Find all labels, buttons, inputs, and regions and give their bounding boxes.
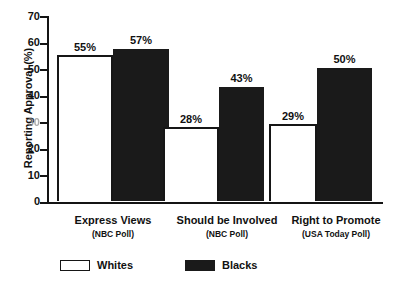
y-tick-mark-40 bbox=[40, 96, 47, 98]
y-axis-spine bbox=[47, 16, 49, 203]
y-tick-label-70: 70 bbox=[14, 11, 40, 22]
y-tick-label-20: 20 bbox=[14, 143, 40, 154]
y-tick-mark-20 bbox=[40, 149, 47, 151]
legend-label-blacks: Blacks bbox=[222, 259, 257, 271]
bar-value-blacks-express-views: 57% bbox=[130, 34, 152, 46]
y-tick-mark-30 bbox=[40, 122, 47, 124]
bar-value-whites-should-be-involved: 28% bbox=[180, 113, 202, 125]
x-axis-baseline bbox=[47, 202, 383, 204]
y-tick-label-30: 30 bbox=[14, 117, 40, 128]
y-tick-label-0: 0 bbox=[14, 196, 40, 207]
y-tick-mark-70 bbox=[40, 16, 47, 18]
legend-entry-blacks[interactable]: Blacks bbox=[185, 259, 257, 271]
legend-swatch-whites-icon bbox=[60, 260, 90, 271]
y-tick-mark-50 bbox=[40, 69, 47, 71]
y-tick-mark-60 bbox=[40, 43, 47, 45]
plot-area: 55% 57% 28% 43% 29% 50% bbox=[47, 16, 383, 203]
bar-blacks-right-to-promote[interactable]: 50% bbox=[317, 68, 372, 201]
x-category-label-right-to-promote: Right to Promote bbox=[278, 214, 394, 226]
y-tick-label-40: 40 bbox=[14, 90, 40, 101]
y-tick-label-60: 60 bbox=[14, 37, 40, 48]
legend-entry-whites[interactable]: Whites bbox=[60, 259, 133, 271]
bar-blacks-express-views[interactable]: 57% bbox=[113, 49, 169, 201]
bar-whites-express-views[interactable]: 55% bbox=[57, 55, 113, 201]
x-category-source-should-be-involved: (NBC Poll) bbox=[160, 228, 294, 240]
bar-value-blacks-right-to-promote: 50% bbox=[333, 53, 355, 65]
legend-swatch-blacks-icon bbox=[185, 260, 215, 271]
legend-label-whites: Whites bbox=[97, 259, 133, 271]
y-tick-label-50: 50 bbox=[14, 64, 40, 75]
bar-blacks-should-be-involved[interactable]: 43% bbox=[219, 87, 264, 201]
bar-chart-figure: Reporting Approval (%) 70 60 50 40 30 20… bbox=[0, 0, 394, 287]
bar-value-whites-right-to-promote: 29% bbox=[282, 110, 304, 122]
y-tick-label-10: 10 bbox=[14, 170, 40, 181]
x-category-right-to-promote: Right to Promote (USA Today Poll) bbox=[278, 214, 394, 240]
bar-whites-should-be-involved[interactable]: 28% bbox=[163, 127, 219, 202]
y-tick-mark-10 bbox=[40, 175, 47, 177]
y-tick-mark-0 bbox=[40, 202, 47, 204]
x-category-source-right-to-promote: (USA Today Poll) bbox=[278, 228, 394, 240]
x-category-should-be-involved: Should be Involved (NBC Poll) bbox=[160, 214, 294, 240]
bar-value-whites-express-views: 55% bbox=[74, 41, 96, 53]
bar-value-blacks-should-be-involved: 43% bbox=[230, 72, 252, 84]
x-category-label-should-be-involved: Should be Involved bbox=[160, 214, 294, 226]
bar-whites-right-to-promote[interactable]: 29% bbox=[269, 124, 317, 201]
